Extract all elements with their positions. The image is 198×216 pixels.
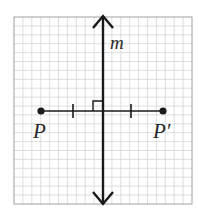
- label-p-prime: P′: [152, 119, 171, 143]
- label-p: P: [32, 119, 46, 143]
- point-p: [37, 107, 44, 114]
- label-m: m: [110, 32, 124, 53]
- point-p-prime: [159, 107, 166, 114]
- reflection-diagram: m P P′: [0, 0, 198, 216]
